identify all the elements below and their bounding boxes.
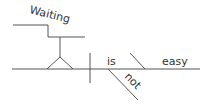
word-not: not xyxy=(122,70,144,92)
sentence-diagram: Waiting is easy not xyxy=(0,0,209,108)
word-easy: easy xyxy=(162,55,188,68)
word-waiting: Waiting xyxy=(28,3,71,26)
gerund-step-line xyxy=(13,25,85,37)
word-is: is xyxy=(107,55,116,68)
complement-divider xyxy=(130,53,145,69)
pedestal-base xyxy=(47,57,73,69)
